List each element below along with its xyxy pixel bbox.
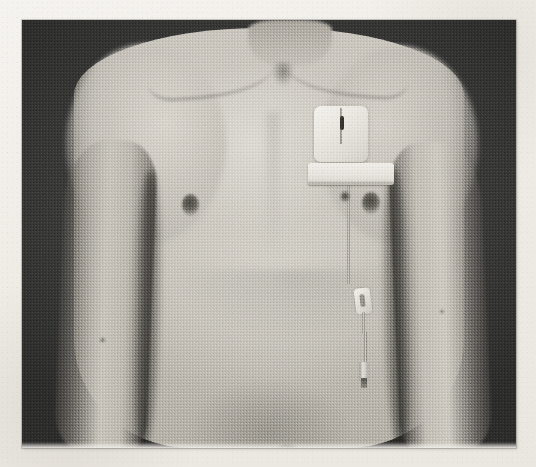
left-nipple bbox=[182, 194, 199, 216]
neck bbox=[248, 20, 332, 66]
catheter-exit-site-mark bbox=[340, 116, 344, 130]
scanned-page bbox=[0, 0, 536, 467]
connector-hub-tip bbox=[361, 378, 367, 388]
skin-mark-right-chest bbox=[340, 190, 350, 204]
clinical-photograph bbox=[22, 20, 516, 448]
sternal-notch bbox=[272, 62, 294, 86]
photo-bottom-fade bbox=[22, 442, 516, 448]
sternum-shading bbox=[266, 112, 280, 262]
right-nipple bbox=[362, 192, 380, 214]
skin-mark-right-arm bbox=[440, 310, 444, 313]
skin-mark-upper-left-arm bbox=[100, 338, 105, 342]
catheter-tubing-mid bbox=[362, 312, 365, 334]
adhesive-tape-edge bbox=[308, 182, 394, 185]
costal-margin-shading bbox=[172, 270, 412, 340]
